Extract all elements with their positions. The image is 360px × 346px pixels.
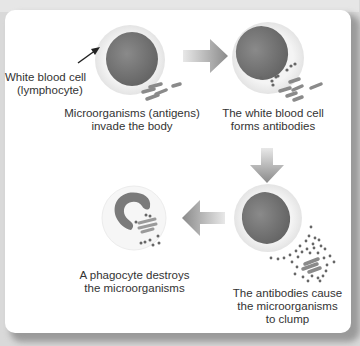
label-phagocyte: A phagocyte destroys the microorganisms	[67, 269, 202, 295]
label-line: Microorganisms (antigens)	[57, 107, 207, 120]
label-line: the microorganisms	[67, 282, 202, 295]
arrow-down-icon	[250, 148, 284, 183]
label-line: the microorganisms	[225, 300, 350, 313]
label-lymphocyte: White blood cell (lymphocyte)	[5, 71, 86, 97]
label-line: to clump	[225, 313, 350, 326]
clump-cell-icon	[234, 184, 302, 252]
label-line: forms antibodies	[218, 120, 328, 133]
label-line: A phagocyte destroys	[67, 269, 202, 282]
label-line: White blood cell	[5, 71, 86, 84]
arrow-left-icon	[182, 200, 225, 236]
label-line: invade the body	[57, 120, 207, 133]
label-antibodies: The white blood cell forms antibodies	[218, 107, 328, 133]
arrow-right-icon	[183, 39, 228, 73]
label-clump: The antibodies cause the microorganisms …	[225, 287, 350, 326]
label-invade: Microorganisms (antigens) invade the bod…	[57, 107, 207, 133]
phagocyte-icon	[102, 186, 166, 250]
microorganisms-icon	[143, 84, 180, 99]
label-line: The white blood cell	[218, 107, 328, 120]
label-line: The antibodies cause	[225, 287, 350, 300]
label-line: (lymphocyte)	[5, 84, 86, 97]
